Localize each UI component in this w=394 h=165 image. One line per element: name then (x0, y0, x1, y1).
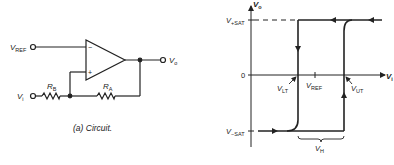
vo-terminal (161, 58, 166, 63)
arrow-top-left (330, 17, 336, 23)
tick-label-v-pos-sat: V+SAT (226, 16, 245, 26)
tick-label-v-neg-sat: V−SAT (226, 127, 245, 137)
label-vref-tick: VREF (306, 81, 323, 91)
arrow-top-right (368, 17, 374, 23)
label-rb: RB (47, 82, 57, 92)
arrow-down (295, 46, 301, 52)
tick-label-zero: 0 (241, 71, 245, 80)
x-axis-label: Vi (386, 72, 393, 82)
label-vut: VUT (351, 84, 364, 94)
vref-terminal (31, 45, 36, 50)
label-inverting-input: − (88, 44, 92, 51)
label-vlt: VLT (277, 84, 289, 94)
vh-brace (298, 136, 344, 142)
circuit-caption: (a) Circuit. (73, 123, 112, 133)
label-noninverting-input: + (88, 69, 92, 76)
figure-canvas: VREF Vi Vo RB RA − + (a) Circuit. (0, 0, 394, 165)
resistor-rb (42, 93, 60, 99)
resistor-ra (97, 93, 115, 99)
hysteresis-graph (248, 6, 385, 147)
vi-terminal (31, 94, 36, 99)
label-ra: RA (103, 82, 113, 92)
label-vref: VREF (10, 43, 27, 53)
label-vi: Vi (17, 92, 24, 102)
label-vh: VH (315, 144, 324, 154)
y-axis-label: Vo (253, 0, 262, 10)
label-vo: Vo (169, 56, 177, 66)
arrow-up (341, 92, 347, 98)
arrow-bottom-right (272, 128, 278, 134)
